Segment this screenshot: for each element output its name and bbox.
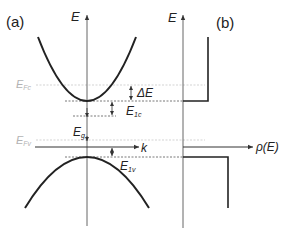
e1v-label: E1v — [120, 159, 136, 173]
band-diagram: (a) (b) E E k ρ(E) EFc EFv ΔE E1c Eg E1v — [0, 0, 293, 237]
e1c-label: E1c — [126, 104, 142, 118]
fermi-conduction-label: EFc — [16, 78, 32, 91]
panel-b-label: (b) — [216, 14, 234, 31]
delta-e-label: ΔE — [136, 86, 154, 100]
fermi-valence-label: EFv — [16, 134, 32, 147]
dos-axis-label: ρ(E) — [255, 140, 279, 154]
dos-conduction-step — [183, 37, 208, 101]
k-axis-label: k — [141, 141, 148, 155]
energy-axis-a-label: E — [71, 9, 80, 24]
dos-valence-step — [183, 157, 228, 208]
panel-a-label: (a) — [6, 13, 24, 30]
energy-axis-b-label: E — [168, 10, 177, 25]
eg-label: Eg — [73, 125, 85, 140]
